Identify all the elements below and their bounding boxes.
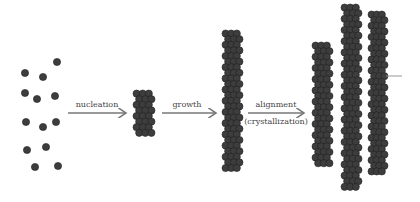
- particle: [31, 163, 38, 170]
- particle: [52, 118, 59, 125]
- particle: [23, 146, 30, 153]
- particle: [42, 143, 49, 150]
- crystallization-label: (crystallization): [244, 117, 308, 126]
- particle: [326, 160, 333, 167]
- particle: [39, 73, 46, 80]
- particle: [233, 164, 240, 171]
- particle: [21, 89, 28, 96]
- crystallization-diagram: nucleation growth alignment (crystalliza…: [0, 0, 420, 202]
- particle: [21, 69, 28, 76]
- diagram-canvas: nucleation growth alignment (crystalliza…: [0, 0, 420, 202]
- particle: [33, 95, 40, 102]
- particle: [53, 58, 60, 65]
- particle: [54, 162, 61, 169]
- nucleation-label: nucleation: [76, 100, 119, 109]
- free-particles: [21, 58, 61, 170]
- particle: [352, 183, 359, 190]
- particle: [22, 118, 29, 125]
- alignment-label: alignment: [256, 100, 298, 109]
- particle: [378, 168, 385, 175]
- particle: [148, 129, 155, 136]
- particle: [51, 92, 58, 99]
- particle: [39, 123, 46, 130]
- growth-label: growth: [173, 100, 202, 109]
- particle-columns: [133, 4, 388, 190]
